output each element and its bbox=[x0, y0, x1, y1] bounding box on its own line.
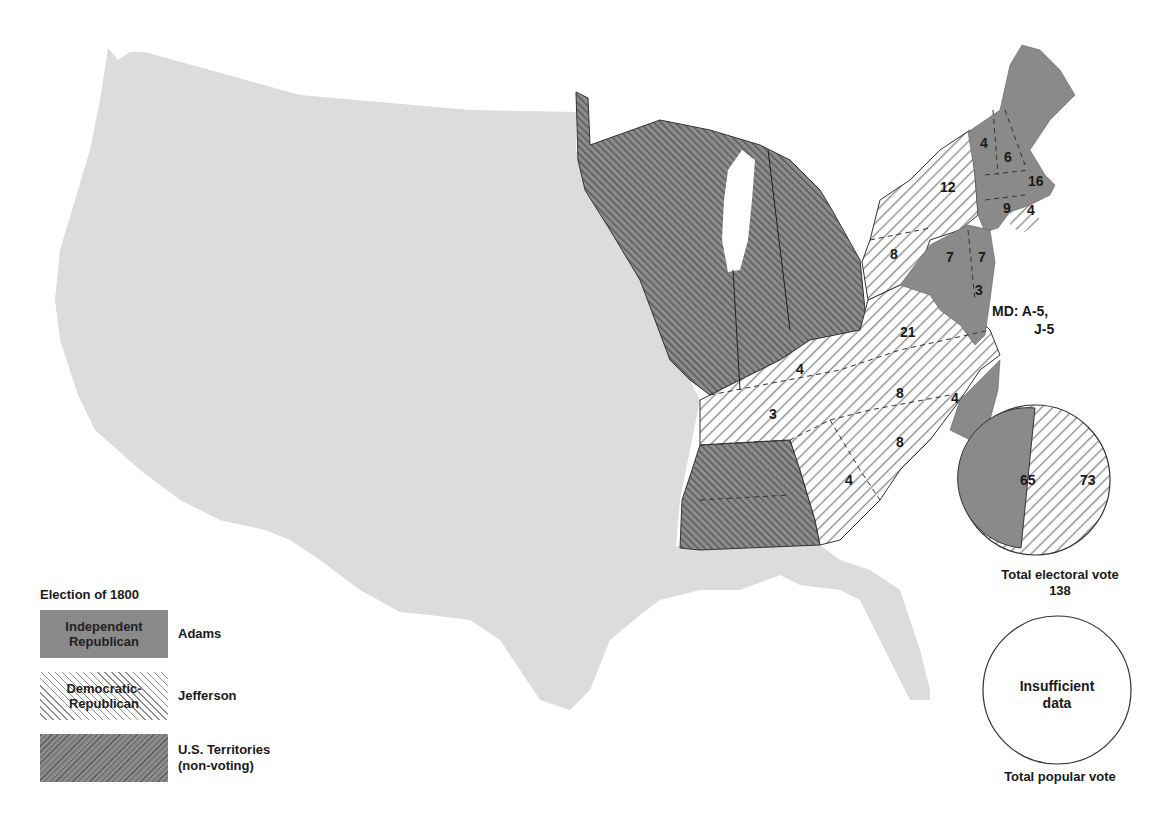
state-votes-rhode-island: 4 bbox=[1027, 202, 1035, 218]
electoral-vote-pie: 65 73 bbox=[958, 405, 1110, 555]
state-votes-massachusetts: 16 bbox=[1028, 173, 1044, 189]
swatch-text-line1: Independent bbox=[65, 619, 142, 634]
maryland-annotation-line1: MD: A-5, bbox=[992, 303, 1048, 319]
swatch-us-territories bbox=[40, 734, 168, 782]
electoral-vote-caption-label: Total electoral vote bbox=[970, 567, 1150, 583]
popular-vote-insufficient-text: Insufficient data bbox=[997, 678, 1117, 712]
swatch-text-line2: Republican bbox=[66, 696, 141, 711]
legend: Election of 1800 IndependentRepublican A… bbox=[40, 587, 340, 796]
electoral-vote-total: 138 bbox=[970, 583, 1150, 599]
legend-label-territories-line2: (non-voting) bbox=[178, 758, 270, 774]
state-votes-connecticut: 9 bbox=[1003, 200, 1011, 216]
legend-label-jefferson: Jefferson bbox=[178, 688, 237, 704]
swatch-text-line2: Republican bbox=[65, 634, 142, 649]
swatch-text-line1: Democratic- bbox=[66, 681, 141, 696]
state-votes-north-carolina: 8 bbox=[896, 385, 904, 401]
state-votes-kentucky: 4 bbox=[796, 361, 804, 377]
legend-label-adams: Adams bbox=[178, 626, 221, 642]
state-votes-tennessee: 3 bbox=[769, 406, 777, 422]
state-votes-north-carolina-east: 4 bbox=[951, 390, 959, 406]
state-votes-new-jersey: 7 bbox=[946, 249, 954, 265]
popular-vote-text-line2: data bbox=[997, 695, 1117, 712]
popular-vote-text-line1: Insufficient bbox=[997, 678, 1117, 695]
legend-item-adams: IndependentRepublican Adams bbox=[40, 610, 340, 658]
popular-vote-caption: Total popular vote bbox=[970, 769, 1150, 785]
swatch-independent-republican: IndependentRepublican bbox=[40, 610, 168, 658]
legend-title: Election of 1800 bbox=[40, 587, 340, 602]
state-votes-new-york: 12 bbox=[940, 179, 956, 195]
swatch-democratic-republican: Democratic-Republican bbox=[40, 672, 168, 720]
electoral-vote-caption: Total electoral vote 138 bbox=[970, 567, 1150, 599]
state-votes-new-hampshire: 6 bbox=[1004, 149, 1012, 165]
legend-label-territories-line1: U.S. Territories bbox=[178, 742, 270, 758]
pie-label-adams: 65 bbox=[1020, 472, 1036, 488]
state-votes-pennsylvania: 8 bbox=[890, 246, 898, 262]
state-votes-south-carolina: 8 bbox=[896, 434, 904, 450]
state-votes-georgia: 4 bbox=[845, 472, 853, 488]
state-votes-delaware: 3 bbox=[975, 282, 983, 298]
legend-label-territories: U.S. Territories (non-voting) bbox=[178, 742, 270, 774]
state-votes-vermont: 4 bbox=[980, 135, 988, 151]
maryland-annotation-line2: J-5 bbox=[1034, 321, 1054, 337]
state-votes-pennsylvania-east: 7 bbox=[978, 249, 986, 265]
pie-label-jefferson: 73 bbox=[1080, 472, 1096, 488]
legend-item-jefferson: Democratic-Republican Jefferson bbox=[40, 672, 340, 720]
legend-item-territories: U.S. Territories (non-voting) bbox=[40, 734, 340, 782]
state-votes-virginia: 21 bbox=[900, 324, 916, 340]
